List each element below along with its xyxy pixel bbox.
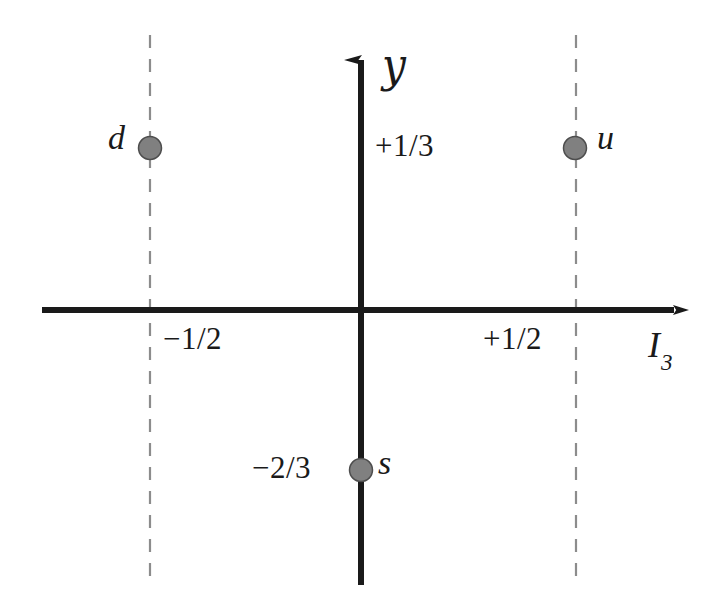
label-u-quark: u bbox=[597, 121, 614, 155]
tick-label-x-plus-half: +1/2 bbox=[483, 323, 542, 354]
x-axis-label: I3 bbox=[648, 327, 672, 369]
tick-label-y-minus-two-thirds: −2/3 bbox=[252, 452, 311, 483]
point-d-quark[interactable] bbox=[139, 137, 162, 160]
label-d-quark: d bbox=[108, 121, 125, 155]
tick-label-x-minus-half: −1/2 bbox=[163, 323, 222, 354]
point-s-quark[interactable] bbox=[350, 459, 373, 482]
x-axis-label-base: I bbox=[648, 325, 660, 365]
tick-label-y-plus-third: +1/3 bbox=[375, 130, 434, 161]
label-s-quark: s bbox=[378, 446, 391, 480]
x-axis-label-subscript: 3 bbox=[661, 350, 673, 375]
point-u-quark[interactable] bbox=[564, 137, 587, 160]
y-axis-label: y bbox=[382, 42, 406, 88]
quark-weight-diagram: d u s −1/2 +1/2 +1/3 −2/3 y I3 bbox=[0, 0, 714, 616]
diagram-canvas bbox=[0, 0, 714, 616]
